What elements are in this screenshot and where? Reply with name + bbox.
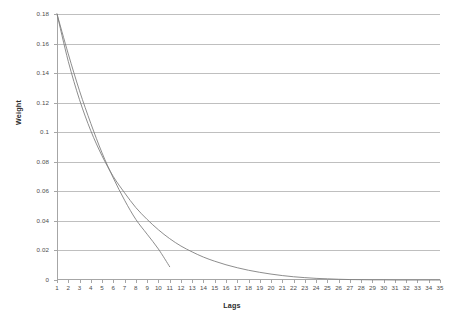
x-tick-mark [181, 280, 182, 283]
x-tick-label: 7 [123, 284, 126, 291]
x-tick-mark [316, 280, 317, 283]
x-tick-label: 5 [100, 284, 103, 291]
x-tick-label: 15 [211, 284, 218, 291]
x-tick-label: 12 [177, 284, 184, 291]
x-tick-mark [192, 280, 193, 283]
y-tick-mark [54, 44, 57, 45]
y-tick-label: 0.14 [0, 69, 49, 76]
x-tick-mark [91, 280, 92, 283]
x-tick-label: 14 [200, 284, 207, 291]
x-tick-label: 13 [189, 284, 196, 291]
y-tick-label: 0.16 [0, 40, 49, 47]
x-tick-label: 31 [391, 284, 398, 291]
x-tick-mark [113, 280, 114, 283]
series-lines [57, 14, 440, 280]
x-tick-label: 20 [268, 284, 275, 291]
x-tick-label: 8 [134, 284, 137, 291]
x-tick-label: 21 [279, 284, 286, 291]
y-tick-mark [54, 103, 57, 104]
y-tick-label: 0.04 [0, 217, 49, 224]
x-tick-mark [57, 280, 58, 283]
y-tick-label: 0.18 [0, 10, 49, 17]
x-tick-mark [260, 280, 261, 283]
x-tick-mark [125, 280, 126, 283]
x-tick-label: 10 [155, 284, 162, 291]
y-tick-mark [54, 162, 57, 163]
x-axis-title: Lags [0, 301, 464, 310]
x-tick-mark [305, 280, 306, 283]
y-tick-label: 0 [0, 276, 49, 283]
x-tick-mark [237, 280, 238, 283]
x-tick-mark [350, 280, 351, 283]
x-tick-mark [158, 280, 159, 283]
x-tick-label: 3 [78, 284, 81, 291]
series-line-k36 [57, 14, 440, 280]
y-tick-mark [54, 221, 57, 222]
x-tick-label: 35 [437, 284, 444, 291]
x-tick-label: 25 [324, 284, 331, 291]
x-tick-mark [282, 280, 283, 283]
x-tick-label: 17 [234, 284, 241, 291]
x-tick-mark [215, 280, 216, 283]
x-tick-label: 23 [301, 284, 308, 291]
x-tick-mark [271, 280, 272, 283]
chart-page: Soybean k=12 k=24 k=36 Weight Lags 12345… [0, 0, 464, 324]
x-tick-label: 6 [112, 284, 115, 291]
x-tick-label: 32 [403, 284, 410, 291]
plot-area: 1234567891011121314151617181920212223242… [57, 14, 440, 280]
x-tick-mark [294, 280, 295, 283]
x-tick-label: 16 [223, 284, 230, 291]
y-tick-label: 0.12 [0, 99, 49, 106]
x-tick-mark [147, 280, 148, 283]
x-tick-mark [170, 280, 171, 283]
x-tick-label: 30 [380, 284, 387, 291]
x-tick-label: 26 [335, 284, 342, 291]
x-tick-mark [226, 280, 227, 283]
x-tick-mark [102, 280, 103, 283]
x-tick-label: 22 [290, 284, 297, 291]
x-tick-label: 24 [313, 284, 320, 291]
x-tick-label: 18 [245, 284, 252, 291]
x-tick-mark [361, 280, 362, 283]
x-tick-label: 4 [89, 284, 92, 291]
x-tick-mark [372, 280, 373, 283]
x-tick-label: 19 [256, 284, 263, 291]
x-tick-label: 28 [358, 284, 365, 291]
y-tick-mark [54, 191, 57, 192]
x-tick-mark [440, 280, 441, 283]
x-tick-mark [384, 280, 385, 283]
y-tick-label: 0.06 [0, 187, 49, 194]
y-tick-label: 0.02 [0, 246, 49, 253]
y-tick-mark [54, 280, 57, 281]
y-tick-mark [54, 14, 57, 15]
x-tick-label: 11 [166, 284, 172, 291]
x-tick-label: 1 [55, 284, 58, 291]
y-tick-mark [54, 250, 57, 251]
x-tick-label: 2 [67, 284, 70, 291]
series-line-k12 [57, 14, 170, 267]
y-tick-label: 0.1 [0, 128, 49, 135]
x-tick-label: 33 [414, 284, 421, 291]
x-tick-mark [80, 280, 81, 283]
y-tick-mark [54, 73, 57, 74]
x-tick-label: 29 [369, 284, 376, 291]
y-tick-mark [54, 132, 57, 133]
x-tick-mark [203, 280, 204, 283]
x-tick-mark [339, 280, 340, 283]
x-tick-label: 9 [145, 284, 148, 291]
y-tick-label: 0.08 [0, 158, 49, 165]
x-tick-label: 34 [425, 284, 432, 291]
x-tick-mark [68, 280, 69, 283]
x-tick-label: 27 [346, 284, 353, 291]
x-tick-mark [327, 280, 328, 283]
x-tick-mark [136, 280, 137, 283]
x-tick-mark [249, 280, 250, 283]
